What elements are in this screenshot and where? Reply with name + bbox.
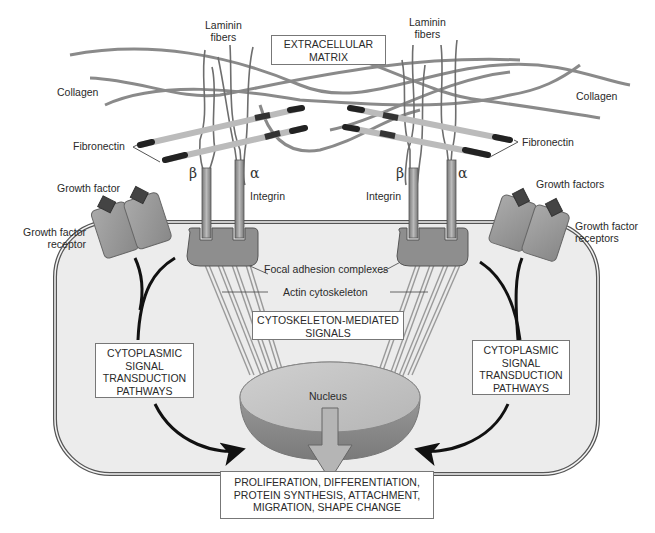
laminin-label-left: Laminin fibers bbox=[205, 19, 242, 43]
fibronectin-label-right: Fibronectin bbox=[522, 136, 574, 148]
beta-label-right: β bbox=[396, 165, 404, 181]
fibronectin-label-left: Fibronectin bbox=[73, 140, 125, 152]
focal-adhesion-left bbox=[187, 228, 258, 266]
cytoplasmic-pathways-box-right: CYTOPLASMIC SIGNAL TRANSDUCTION PATHWAYS bbox=[472, 340, 570, 395]
collagen-label-right: Collagen bbox=[576, 90, 617, 102]
nucleus-label: Nucleus bbox=[309, 390, 347, 402]
growth-factor-receptor-label-left: Growth factor receptor bbox=[18, 226, 86, 250]
beta-label-left: β bbox=[189, 165, 197, 181]
fibronectin-right bbox=[345, 108, 518, 157]
focal-adhesion-label: Focal adhesion complexes bbox=[264, 263, 388, 275]
growth-factor-receptors-label-right: Growth factor receptors bbox=[575, 220, 638, 244]
growth-factor-label-left: Growth factor bbox=[57, 182, 120, 194]
outcomes-box: PROLIFERATION, DIFFERENTIATION, PROTEIN … bbox=[220, 471, 434, 519]
collagen-label-left: Collagen bbox=[57, 86, 98, 98]
integrin-label-left: Integrin bbox=[250, 190, 285, 202]
extracellular-matrix-box: EXTRACELLULAR MATRIX bbox=[271, 35, 386, 65]
alpha-label-left: α bbox=[250, 165, 259, 181]
actin-cytoskeleton-label: Actin cytoskeleton bbox=[283, 286, 368, 298]
fibronectin-left bbox=[133, 108, 305, 162]
laminin-label-right: Laminin fibers bbox=[409, 16, 446, 40]
growth-factors-label-right: Growth factors bbox=[536, 178, 604, 190]
alpha-label-right: α bbox=[458, 165, 467, 181]
cytoskeleton-signals-box: CYTOSKELETON-MEDIATED SIGNALS bbox=[252, 311, 404, 340]
integrin-label-right: Integrin bbox=[366, 190, 401, 202]
cytoplasmic-pathways-box-left: CYTOPLASMIC SIGNAL TRANSDUCTION PATHWAYS bbox=[95, 343, 194, 398]
